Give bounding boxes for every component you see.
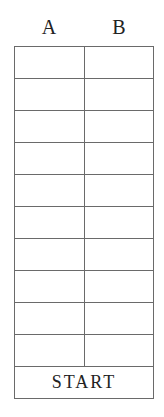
grid-cell-a[interactable] — [15, 207, 84, 238]
grid-cell-a[interactable] — [15, 143, 84, 174]
grid-cell-a[interactable] — [15, 335, 84, 366]
grid-row — [15, 239, 153, 271]
column-header-a: A — [14, 14, 84, 40]
grid-cell-a[interactable] — [15, 175, 84, 206]
grid-cell-b[interactable] — [84, 207, 154, 238]
grid-row — [15, 175, 153, 207]
grid-cell-b[interactable] — [84, 239, 154, 270]
grid-row — [15, 47, 153, 79]
grid-row — [15, 303, 153, 335]
grid-cell-a[interactable] — [15, 79, 84, 110]
grid-cell-b[interactable] — [84, 111, 154, 142]
grid-cell-b[interactable] — [84, 335, 154, 366]
grid-cell-b[interactable] — [84, 143, 154, 174]
grid-cell-b[interactable] — [84, 79, 154, 110]
grid-row — [15, 111, 153, 143]
grid-row — [15, 271, 153, 303]
grid-cell-a[interactable] — [15, 303, 84, 334]
grid-cell-a[interactable] — [15, 271, 84, 302]
score-grid: START — [14, 46, 154, 399]
grid-row — [15, 207, 153, 239]
grid-cell-a[interactable] — [15, 239, 84, 270]
grid-row — [15, 79, 153, 111]
grid-cell-b[interactable] — [84, 47, 154, 78]
start-button[interactable]: START — [15, 367, 153, 399]
column-headers: A B — [14, 14, 154, 40]
grid-row — [15, 335, 153, 367]
grid-row — [15, 143, 153, 175]
column-header-b: B — [84, 14, 154, 40]
grid-cell-b[interactable] — [84, 271, 154, 302]
grid-cell-a[interactable] — [15, 47, 84, 78]
grid-cell-a[interactable] — [15, 111, 84, 142]
grid-cell-b[interactable] — [84, 303, 154, 334]
grid-cell-b[interactable] — [84, 175, 154, 206]
